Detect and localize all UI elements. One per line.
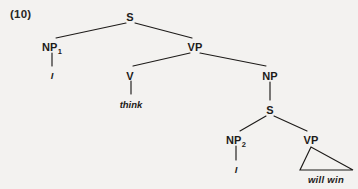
tree-edge-s2-np2 <box>240 116 266 131</box>
tree-edges-canvas <box>0 0 358 189</box>
tree-edge-vp1-np3 <box>200 53 266 66</box>
tree-terminal-t-think: think <box>120 99 143 110</box>
tree-node-np2: NP2 <box>226 134 246 146</box>
tree-node-vp2: VP <box>303 134 318 146</box>
tree-node-label: V <box>126 70 134 82</box>
tree-node-label: NP <box>226 134 242 146</box>
tree-terminal-t-i-1: I <box>51 70 54 81</box>
tree-node-vp1: VP <box>187 41 202 53</box>
tree-node-v: V <box>126 70 134 82</box>
tree-node-subscript: 1 <box>58 47 62 56</box>
tree-node-np1: NP1 <box>42 41 62 53</box>
tree-node-label: NP <box>262 70 278 82</box>
tree-node-np3: NP <box>262 70 278 82</box>
tree-node-label: S <box>126 11 134 23</box>
edge-group <box>52 23 307 160</box>
tree-edge-s1-vp1 <box>135 23 192 38</box>
syntax-tree-figure: (10) SNP1VPVNPSNP2VP IthinkIwill win <box>0 0 358 189</box>
tree-edge-s2-vp2 <box>274 116 307 131</box>
tree-node-s1: S <box>126 11 134 23</box>
tree-edge-vp1-v <box>133 53 190 66</box>
tree-node-label: NP <box>42 41 58 53</box>
tree-terminal-t-will-win: will win <box>308 174 344 185</box>
tree-edge-s1-np1 <box>56 23 126 38</box>
tree-node-label: VP <box>187 41 202 53</box>
tree-node-s2: S <box>266 104 274 116</box>
tree-terminal-t-i-2: I <box>235 164 238 175</box>
vp2-triangle <box>300 147 353 170</box>
triangle-group <box>300 147 353 170</box>
tree-node-subscript: 2 <box>242 140 246 149</box>
tree-node-label: VP <box>303 134 318 146</box>
tree-node-label: S <box>266 104 274 116</box>
